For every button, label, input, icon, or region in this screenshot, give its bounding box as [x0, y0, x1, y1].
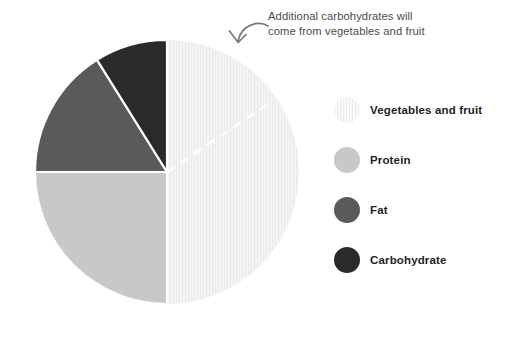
legend-swatch-carbohydrate-icon	[334, 247, 360, 273]
annotation-line-2: come from vegetables and fruit	[268, 24, 503, 39]
legend-item-fat[interactable]: Fat	[334, 185, 505, 235]
legend-label-carbohydrate: Carbohydrate	[370, 254, 447, 266]
pie-chart-svg	[35, 40, 299, 304]
legend-item-protein[interactable]: Protein	[334, 135, 505, 185]
legend-label-protein: Protein	[370, 154, 411, 166]
chart-canvas: Additional carbohydrates will come from …	[0, 0, 505, 337]
legend-label-vegetables-and-fruit: Vegetables and fruit	[370, 104, 482, 116]
chart-legend: Vegetables and fruit Protein Fat Carbohy…	[334, 85, 505, 285]
pie-slice-protein[interactable]	[35, 172, 167, 304]
pie-slice-vegetables-and-fruit[interactable]	[167, 40, 299, 304]
legend-swatch-vegetables-and-fruit-icon	[334, 97, 360, 123]
chart-annotation: Additional carbohydrates will come from …	[268, 9, 503, 39]
pie-chart	[35, 40, 299, 304]
legend-item-vegetables-and-fruit[interactable]: Vegetables and fruit	[334, 85, 505, 135]
curved-arrow-down-left-icon	[216, 17, 272, 53]
legend-label-fat: Fat	[370, 204, 388, 216]
legend-swatch-protein-icon	[334, 147, 360, 173]
annotation-line-1: Additional carbohydrates will	[268, 9, 503, 24]
legend-item-carbohydrate[interactable]: Carbohydrate	[334, 235, 505, 285]
legend-swatch-fat-icon	[334, 197, 360, 223]
